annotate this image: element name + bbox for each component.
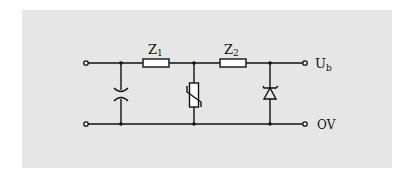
label-z1: Z1 [148,42,163,58]
terminal-output-top [303,61,307,65]
resistor-z2-icon [220,59,246,67]
label-0v: OV [317,118,336,132]
capacitor-icon [114,63,128,124]
terminal-output-bottom [303,122,307,126]
terminal-input-bottom [84,122,88,126]
label-z2: Z2 [224,42,239,58]
varistor-icon [187,63,201,124]
resistor-z1-icon [143,59,169,67]
label-ub: Ub [315,56,332,73]
terminal-input-top [84,61,88,65]
zener-diode-icon [263,63,278,124]
circuit-schematic: Z1 Z2 Ub OV [0,0,407,181]
